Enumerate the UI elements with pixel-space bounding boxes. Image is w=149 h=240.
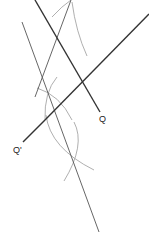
label-q: Q: [99, 114, 106, 124]
construction-diagram: Q Q': [0, 0, 149, 240]
big-left-arc: [46, 115, 94, 170]
line-q-prime-extension: [23, 120, 45, 142]
label-q-prime: Q': [13, 145, 22, 155]
crossing-arc-left: [37, 88, 72, 120]
perpendicular-line: [22, 22, 99, 232]
line-to-q: [35, 0, 100, 112]
top-right-arc: [72, 2, 87, 56]
line-through-q-prime: [45, 14, 149, 120]
